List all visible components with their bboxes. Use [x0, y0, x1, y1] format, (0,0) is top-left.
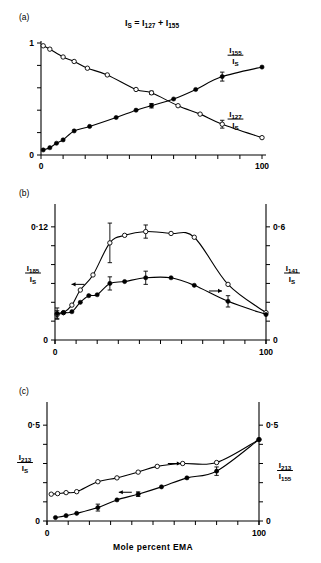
panel-b-datapoint: [78, 288, 82, 292]
panel-b-datapoint: [169, 231, 173, 235]
panel-b-datapoint: [144, 229, 148, 233]
panel-b-left-tick-label: 0·12: [31, 222, 48, 232]
panel-a-datapoint: [149, 91, 153, 95]
panel-a-datapoint: [260, 65, 264, 69]
panel-c-axis-pointer-0-head: [177, 461, 181, 465]
panel-a-series-label-0: I155IS: [228, 46, 244, 67]
panel-c-datapoint: [75, 511, 79, 515]
panel-c-datapoint: [136, 470, 140, 474]
panel-b-right-axis-title-numerator: I141: [286, 264, 299, 274]
panel-b-right-axis-title-denominator: IS: [289, 275, 295, 285]
panel-b-datapoint: [122, 233, 126, 237]
panel-b-left-axis-title-denominator: IS: [30, 275, 36, 285]
panel-a-datapoint: [61, 55, 65, 59]
panel-b-datapoint: [192, 235, 196, 239]
panel-c-right-tick-label: 0: [266, 516, 271, 526]
panel-b-right-tick-label: 0·6: [273, 222, 286, 232]
panel-c-datapoint: [214, 460, 218, 464]
panel-a-datapoint: [176, 104, 180, 108]
panel-a-label: (a): [19, 12, 30, 22]
panel-c-right-axis-title-denominator: I155: [279, 472, 292, 482]
panel-b-datapoint: [95, 293, 99, 297]
panel-c-datapoint: [155, 464, 159, 468]
panel-b-curve-0: [57, 232, 266, 315]
panel-c-axis-pointer-1-head: [119, 490, 123, 494]
panel-b-datapoint: [226, 299, 230, 303]
panel-c-datapoint: [64, 514, 68, 518]
panel-c-datapoint: [55, 491, 59, 495]
panel-c-datapoint: [115, 476, 119, 480]
panel-a-datapoint: [149, 104, 153, 108]
panel-c-left-tick-label: 0·5: [28, 420, 41, 430]
panel-b-datapoint: [123, 279, 127, 283]
panel-b-datapoint: [70, 303, 74, 307]
panel-b-xtick-label: 0: [53, 347, 58, 357]
panel-a-datapoint: [194, 87, 198, 91]
panel-b-left-axis-title: I185IS: [25, 264, 41, 285]
panel-a-datapoint: [85, 66, 89, 70]
panel-b-datapoint: [108, 241, 112, 245]
panel-b-datapoint: [91, 273, 95, 277]
panel-c-datapoint: [64, 490, 68, 494]
panel-c-right-axis-title-numerator: I213: [279, 461, 292, 471]
panel-c-datapoint: [53, 515, 57, 519]
panel-b-datapoint: [144, 276, 148, 280]
panel-a-xtick-label: 100: [255, 161, 269, 171]
panel-b-axis-pointer-0-head: [72, 282, 76, 286]
panel-c-datapoint: [180, 461, 184, 465]
panel-a-datapoint: [88, 124, 92, 128]
panel-a-datapoint: [260, 135, 264, 139]
panel-b-label: (b): [19, 188, 30, 198]
panel-b-left-tick-label: 0: [43, 335, 48, 345]
panel-a-datapoint: [114, 115, 118, 119]
panel-b-datapoint: [70, 310, 74, 314]
panel-c-right-tick-label: 0·5: [266, 420, 279, 430]
panel-a-datapoint: [72, 59, 76, 63]
panel-b-datapoint: [61, 311, 65, 315]
panel-c-datapoint: [185, 476, 189, 480]
figure-container: (a)IS = I127 + I155010100I155ISI127IS(b)…: [0, 0, 321, 563]
panel-b-xtick-label: 100: [259, 347, 273, 357]
panel-a-series-label-0-denominator: IS: [232, 57, 238, 67]
panel-c-right-axis-title: I213I155: [277, 461, 293, 482]
panel-b-datapoint: [169, 276, 173, 280]
panel-b: (b)00·1200·60100I185ISI141IS: [19, 188, 300, 357]
panel-c-left-axis-title: I213IS: [17, 453, 33, 474]
panel-a-ytick-label: 1: [29, 38, 34, 48]
panel-a-datapoint: [72, 129, 76, 133]
panel-b-datapoint: [78, 300, 82, 304]
panel-a-xtick-label: 0: [39, 161, 44, 171]
panel-c-datapoint: [74, 489, 78, 493]
panel-a-datapoint: [134, 87, 138, 91]
panel-c-xtick-label: 100: [252, 528, 266, 538]
panel-b-axis-pointer-1-head: [218, 289, 222, 293]
panel-a: (a)IS = I127 + I155010100I155ISI127IS: [19, 12, 269, 171]
panel-c-datapoint: [159, 485, 163, 489]
panel-c-xlabel: Mole percent EMA: [113, 542, 193, 552]
panel-c-label: (c): [19, 386, 29, 396]
panel-c-datapoint: [115, 498, 119, 502]
panel-c: (c)00·500·50100I213ISI213I155Mole percen…: [17, 386, 293, 552]
panel-b-datapoint: [264, 312, 268, 316]
panel-b-right-tick-label: 0: [273, 335, 278, 345]
panel-a-datapoint: [41, 44, 45, 48]
panel-a-datapoint: [105, 73, 109, 77]
panel-a-datapoint: [48, 47, 52, 51]
panel-c-left-axis-title-denominator: IS: [22, 464, 28, 474]
panel-c-datapoint: [96, 505, 100, 509]
panel-c-curve-1: [55, 440, 259, 518]
panel-b-right-axis-title: I141IS: [284, 264, 300, 285]
title-equation: IS = I127 + I155: [125, 18, 180, 29]
panel-a-datapoint: [198, 112, 202, 116]
panel-a-curve-0: [43, 67, 262, 150]
panel-c-datapoint: [215, 469, 219, 473]
panel-a-datapoint: [48, 146, 52, 150]
panel-a-series-label-0-numerator: I155: [229, 46, 242, 56]
panel-a-datapoint: [61, 138, 65, 142]
panel-a-series-label-1-denominator: IS: [232, 121, 238, 131]
panel-c-datapoint: [136, 492, 140, 496]
three-panel-figure: (a)IS = I127 + I155010100I155ISI127IS(b)…: [0, 0, 321, 563]
panel-b-left-axis-title-numerator: I185: [27, 264, 40, 274]
panel-b-datapoint: [108, 281, 112, 285]
panel-c-xtick-label: 0: [45, 528, 50, 538]
